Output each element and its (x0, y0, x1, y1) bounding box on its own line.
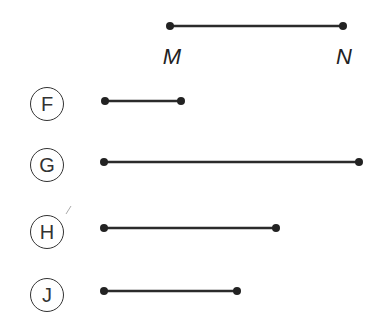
label-m: M (163, 44, 181, 70)
segment-h (100, 224, 280, 232)
segment-f (101, 97, 185, 105)
option-f[interactable]: F (30, 87, 64, 121)
segment-mn (166, 22, 347, 30)
stray-mark (66, 206, 71, 214)
segment-g (100, 158, 363, 166)
option-j[interactable]: J (30, 278, 64, 312)
option-h[interactable]: H (30, 215, 64, 249)
label-n: N (336, 44, 352, 70)
segment-j (100, 287, 241, 295)
option-g[interactable]: G (30, 148, 64, 182)
